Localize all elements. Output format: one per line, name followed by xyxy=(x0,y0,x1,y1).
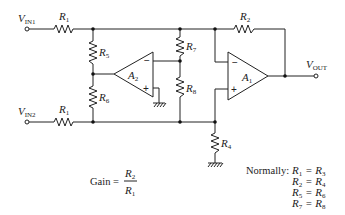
svg-text:A1: A1 xyxy=(241,71,253,85)
vin1-label: VIN1 xyxy=(18,12,36,26)
resistor-r4 xyxy=(211,133,219,153)
opamp-a2: − + A2 xyxy=(114,52,153,97)
equation-4: R7=R8 xyxy=(291,197,326,211)
vout-label: VOUT xyxy=(306,58,328,72)
a1-minus-sign: − xyxy=(232,57,238,68)
vout-terminal xyxy=(314,74,318,78)
resistor-r1-bottom xyxy=(54,118,75,126)
gain-label: Gain = xyxy=(90,176,119,187)
gain-numerator: R2 xyxy=(124,167,136,181)
gain-formula: Gain = R2 R1 xyxy=(90,167,137,198)
r5-label: R5 xyxy=(98,46,110,60)
resistor-r2 xyxy=(234,25,256,33)
svg-text:A2: A2 xyxy=(127,69,139,83)
resistor-r6 xyxy=(89,86,97,108)
r2-label: R2 xyxy=(239,10,251,24)
resistor-r7 xyxy=(176,37,184,56)
r6-label: R6 xyxy=(98,91,110,105)
resistor-r5 xyxy=(89,41,97,64)
vin2-terminal xyxy=(25,120,29,124)
r1-top-label: R1 xyxy=(58,10,70,24)
normally-label: Normally: xyxy=(246,165,289,176)
r4-label: R4 xyxy=(220,137,232,151)
vin2-label: VIN2 xyxy=(18,105,36,119)
ground-a2-icon xyxy=(153,103,166,107)
a2-minus-sign: − xyxy=(144,55,150,66)
r8-label: R8 xyxy=(185,82,197,96)
gain-denominator: R1 xyxy=(124,184,136,198)
a1-plus-sign: + xyxy=(231,84,237,95)
wires xyxy=(29,29,314,163)
r7-label: R7 xyxy=(185,40,197,54)
a2-plus-sign: + xyxy=(143,83,149,94)
opamp-a1: − + A1 xyxy=(228,52,268,100)
ground-r4-icon xyxy=(208,163,223,167)
resistor-r1-top xyxy=(54,25,75,33)
circuit-diagram: − + A2 − + A1 VIN1 xyxy=(0,0,345,215)
vin1-terminal xyxy=(25,27,29,31)
resistor-r8 xyxy=(176,77,184,97)
r1-bottom-label: R1 xyxy=(58,103,70,117)
normally-conditions: Normally: R1=R3 R2=R4 R5=R6 R7=R8 xyxy=(246,164,326,211)
